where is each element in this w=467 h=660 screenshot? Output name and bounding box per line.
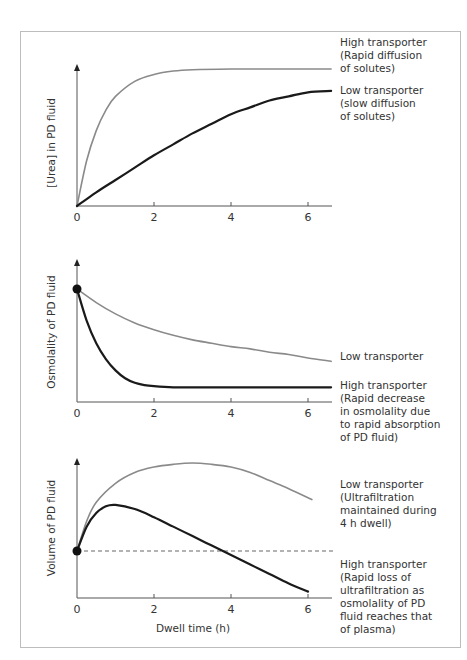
x-tick-label: 6 <box>305 211 312 224</box>
start-point-marker <box>73 285 82 294</box>
annotation-high-line-2: (Rapid diffusion <box>340 49 422 61</box>
annotation-low-line-3: maintained during <box>340 504 437 516</box>
annotation-low-line-2: (slow diffusion <box>340 97 416 109</box>
annotation-low-line-1: Low transporter <box>340 350 424 362</box>
annotation-low-line-3: of solutes) <box>340 110 395 122</box>
y-axis-label: Osmolality of PD fluid <box>45 275 57 388</box>
x-axis-label: Dwell time (h) <box>156 622 230 634</box>
panel-volume: Volume of PD fluid Dwell time (h) Low tr… <box>45 458 437 635</box>
annotation-high-line-1: High transporter <box>340 558 427 570</box>
grey-curve <box>77 69 331 206</box>
black-curve <box>77 289 331 387</box>
y-axis-arrow-icon <box>74 259 80 266</box>
annotation-high-line-2: (Rapid loss of <box>340 571 411 583</box>
annotation-high-line-6: of plasma) <box>340 623 396 635</box>
figure-frame <box>21 32 461 648</box>
panel-urea: [Urea] in PD fluid High transporter (Rap… <box>45 36 427 224</box>
y-axis-arrow-icon <box>74 64 80 71</box>
x-tick-label: 4 <box>228 603 235 616</box>
annotation-high-line-4: osmolality of PD <box>340 597 425 609</box>
annotation-high-line-2: (Rapid decrease <box>340 392 425 404</box>
annotation-low-line-1: Low transporter <box>340 478 424 490</box>
annotation-high-line-3: in osmolality due <box>340 405 430 417</box>
start-point-marker <box>73 547 82 556</box>
x-tick-label: 4 <box>228 407 235 420</box>
annotation-high-line-1: High transporter <box>340 36 427 48</box>
y-axis-label: [Urea] in PD fluid <box>45 98 57 188</box>
figure-canvas: [Urea] in PD fluid High transporter (Rap… <box>0 0 467 660</box>
black-curve <box>77 505 308 592</box>
annotation-low-line-2: (Ultrafiltration <box>340 491 414 503</box>
x-tick-label: 2 <box>151 407 158 420</box>
x-tick-label: 2 <box>151 211 158 224</box>
annotation-high-line-1: High transporter <box>340 379 427 391</box>
y-axis-label: Volume of PD fluid <box>45 480 57 576</box>
y-axis-arrow-icon <box>74 458 80 465</box>
annotation-high-line-3: ultrafiltration as <box>340 584 424 596</box>
x-tick-label: 6 <box>305 407 312 420</box>
annotation-high-line-5: fluid reaches that <box>340 610 432 622</box>
x-tick-label: 0 <box>74 211 81 224</box>
annotation-high-line-5: of PD fluid) <box>340 431 398 443</box>
x-tick-label: 2 <box>151 603 158 616</box>
x-tick-label: 0 <box>74 407 81 420</box>
annotation-low-line-1: Low transporter <box>340 84 424 96</box>
annotation-high-line-3: of solutes) <box>340 62 395 74</box>
annotation-low-line-4: 4 h dwell) <box>340 517 392 529</box>
panel-osmolality: Osmolality of PD fluid Low transporter H… <box>45 259 440 443</box>
grey-curve <box>77 289 331 361</box>
x-tick-label: 4 <box>228 211 235 224</box>
annotation-high-line-4: to rapid absorption <box>340 418 440 430</box>
x-tick-label: 6 <box>305 603 312 616</box>
x-tick-label: 0 <box>74 603 81 616</box>
black-curve <box>77 91 331 206</box>
